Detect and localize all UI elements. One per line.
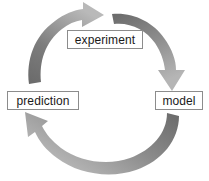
cycle-diagram: experiment model prediction [0,0,209,181]
node-model: model [155,91,203,110]
node-experiment: experiment [67,30,143,49]
node-prediction: prediction [7,91,79,110]
node-prediction-label: prediction [16,95,69,107]
node-model-label: model [162,95,195,107]
arrow-model-to-prediction [25,112,179,174]
arrow-experiment-to-model [112,14,185,91]
node-experiment-label: experiment [75,34,135,46]
